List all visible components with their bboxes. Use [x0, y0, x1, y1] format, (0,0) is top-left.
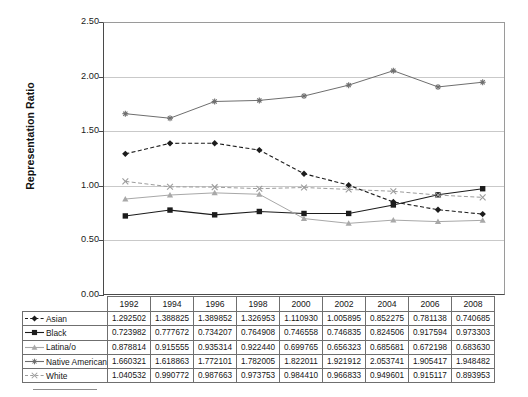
series-name-label: Asian [46, 314, 67, 324]
series-name-label: Black [46, 328, 66, 338]
table-value-cell: 0.935314 [193, 340, 236, 354]
table-value-cell: 1.948482 [451, 354, 494, 368]
table-row: Latina/o0.8788140.9155550.9353140.922440… [23, 340, 495, 354]
data-table: 199219941996199820002002200420062008Asia… [22, 296, 495, 383]
legend-marker-diamond-icon [25, 313, 44, 324]
table-row: Native American1.6603211.6188631.7721011… [23, 354, 495, 368]
table-value-cell: 0.915117 [408, 369, 451, 383]
table-value-cell: 0.723982 [107, 326, 150, 340]
plot-area [103, 22, 505, 295]
table-value-cell: 0.984410 [279, 369, 322, 383]
table-year-header: 2008 [451, 297, 494, 312]
table-value-cell: 1.618863 [150, 354, 193, 368]
table-value-cell: 2.053741 [365, 354, 408, 368]
table-corner-cell [23, 297, 108, 312]
table-row: White1.0405320.9907720.9876630.9737530.9… [23, 369, 495, 383]
legend-marker-cross-icon [25, 370, 44, 381]
table-value-cell: 0.922440 [236, 340, 279, 354]
legend-marker-square-icon [25, 327, 44, 338]
table-value-cell: 0.699765 [279, 340, 322, 354]
series-white [122, 178, 485, 200]
table-value-cell: 0.973303 [451, 326, 494, 340]
table-year-header: 2000 [279, 297, 322, 312]
table-year-header: 1992 [107, 297, 150, 312]
table-value-cell: 0.740685 [451, 312, 494, 326]
y-axis-tick-label: 1.00 [59, 180, 99, 190]
table-value-cell: 0.917594 [408, 326, 451, 340]
table-value-cell: 0.685681 [365, 340, 408, 354]
table-value-cell: 1.660321 [107, 354, 150, 368]
table-value-cell: 0.915555 [150, 340, 193, 354]
series-latina-o [122, 190, 486, 226]
table-year-header: 1994 [150, 297, 193, 312]
legend-entry-latina-o: Latina/o [23, 340, 108, 354]
y-axis-tick-label: 2.50 [59, 16, 99, 26]
table-value-cell: 1.772101 [193, 354, 236, 368]
series-name-label: Native American [46, 357, 107, 367]
table-value-cell: 0.746835 [322, 326, 365, 340]
table-row: Black0.7239820.7776720.7342070.7649080.7… [23, 326, 495, 340]
series-name-label: White [46, 371, 67, 381]
table-value-cell: 0.777672 [150, 326, 193, 340]
table-value-cell: 0.672198 [408, 340, 451, 354]
table-value-cell: 0.746558 [279, 326, 322, 340]
table-value-cell: 1.388825 [150, 312, 193, 326]
table-value-cell: 0.987663 [193, 369, 236, 383]
table-value-cell: 0.764908 [236, 326, 279, 340]
chart-figure: Representation Ratio 0.000.501.001.502.0… [0, 0, 528, 397]
table-value-cell: 0.966833 [322, 369, 365, 383]
table-value-cell: 0.852275 [365, 312, 408, 326]
series-asian [122, 140, 486, 217]
table-year-header: 2002 [322, 297, 365, 312]
table-value-cell: 0.683630 [451, 340, 494, 354]
table-value-cell: 1.110930 [279, 312, 322, 326]
table-value-cell: 0.973753 [236, 369, 279, 383]
y-axis-tick-label: 2.00 [59, 71, 99, 81]
table-value-cell: 1.005895 [322, 312, 365, 326]
table-value-cell: 0.949601 [365, 369, 408, 383]
table-value-cell: 0.878814 [107, 340, 150, 354]
scan-rule-line [33, 389, 97, 390]
table-value-cell: 0.990772 [150, 369, 193, 383]
legend-entry-asian: Asian [23, 312, 108, 326]
legend-entry-native-american: Native American [23, 354, 108, 368]
legend-marker-triangle-icon [25, 342, 44, 353]
y-axis-title: Representation Ratio [24, 26, 36, 246]
table-value-cell: 0.824506 [365, 326, 408, 340]
table-value-cell: 1.326953 [236, 312, 279, 326]
y-axis-tick-label: 0.50 [59, 234, 99, 244]
legend-entry-black: Black [23, 326, 108, 340]
table-value-cell: 1.040532 [107, 369, 150, 383]
table-row: Asian1.2925021.3888251.3898521.3269531.1… [23, 312, 495, 326]
table-value-cell: 1.905417 [408, 354, 451, 368]
table-value-cell: 0.781138 [408, 312, 451, 326]
series-native-american [122, 68, 485, 121]
table-value-cell: 1.921912 [322, 354, 365, 368]
table-value-cell: 1.389852 [193, 312, 236, 326]
table-value-cell: 1.292502 [107, 312, 150, 326]
table-value-cell: 0.656323 [322, 340, 365, 354]
series-lines [103, 22, 505, 295]
legend-entry-white: White [23, 369, 108, 383]
table-header-row: 199219941996199820002002200420062008 [23, 297, 495, 312]
y-axis-tick-label: 1.50 [59, 125, 99, 135]
series-black [123, 186, 486, 219]
table-year-header: 1996 [193, 297, 236, 312]
table-year-header: 2006 [408, 297, 451, 312]
series-name-label: Latina/o [46, 342, 76, 352]
table-value-cell: 1.782005 [236, 354, 279, 368]
table-year-header: 1998 [236, 297, 279, 312]
table-value-cell: 0.893953 [451, 369, 494, 383]
table-value-cell: 1.822011 [279, 354, 322, 368]
legend-marker-star-icon [25, 356, 44, 367]
table-value-cell: 0.734207 [193, 326, 236, 340]
table-year-header: 2004 [365, 297, 408, 312]
